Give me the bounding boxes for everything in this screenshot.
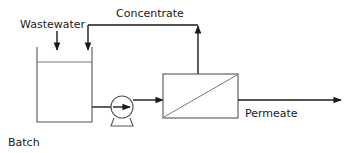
diagram-canvas: Wastewater Concentrate Permeate Batch bbox=[0, 0, 351, 153]
permeate-label: Permeate bbox=[245, 107, 298, 120]
process-flow-diagram: Wastewater Concentrate Permeate Batch bbox=[0, 0, 351, 153]
feed-tank bbox=[37, 47, 92, 122]
pump-base bbox=[111, 118, 133, 126]
feed-pump bbox=[111, 96, 133, 126]
membrane-module bbox=[163, 74, 238, 118]
concentrate-recycle-stream bbox=[88, 25, 198, 74]
wastewater-label: Wastewater bbox=[20, 18, 86, 31]
concentrate-label: Concentrate bbox=[116, 7, 184, 20]
diagram-caption: Batch bbox=[8, 136, 40, 149]
feed-tank-shell bbox=[37, 47, 92, 122]
